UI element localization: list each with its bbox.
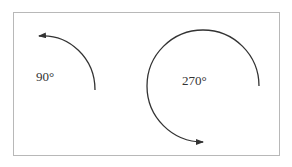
angle-label-270: 270°: [182, 73, 207, 89]
angle-label-90: 90°: [36, 69, 54, 85]
